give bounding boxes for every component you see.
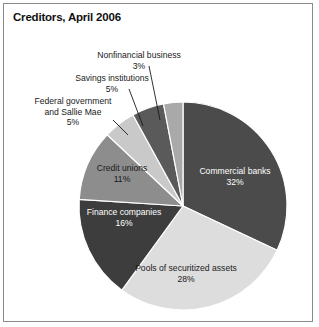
slice-label-credit-unions: Credit unions 11% — [67, 163, 177, 184]
slice-label-savings-name: Savings institutions — [75, 73, 149, 83]
slice-label-nonfinancial-pct: 3% — [79, 61, 199, 72]
slice-label-nonfinancial: Nonfinancial business 3% — [79, 50, 199, 71]
slice-label-commercial-pct: 32% — [180, 177, 290, 188]
slice-label-savings-institutions: Savings institutions 5% — [47, 73, 177, 94]
slice-label-pools-securitized-assets: Pools of securitized assets 28% — [111, 263, 261, 284]
slice-label-nonfinancial-name: Nonfinancial business — [97, 50, 181, 60]
slice-label-finance-pct: 16% — [64, 218, 184, 229]
slice-label-credit-name: Credit unions — [97, 163, 148, 173]
slice-label-pools-name: Pools of securitized assets — [135, 263, 237, 273]
chart-figure: Creditors, April 2006 Nonfinancial busin… — [0, 0, 319, 327]
slice-label-commercial-banks: Commercial banks 32% — [180, 166, 290, 187]
slice-label-pools-pct: 28% — [111, 274, 261, 285]
slice-label-federal-line1: Federal government — [35, 96, 112, 106]
slice-label-federal-line2: and Sallie Mae — [8, 107, 138, 118]
slice-label-savings-pct: 5% — [47, 84, 177, 95]
slice-label-commercial-name: Commercial banks — [199, 166, 270, 176]
slice-label-finance-name: Finance companies — [87, 207, 162, 217]
slice-label-federal-pct: 5% — [8, 117, 138, 128]
slice-label-credit-pct: 11% — [67, 174, 177, 185]
slice-label-finance-companies: Finance companies 16% — [64, 207, 184, 228]
slice-label-federal-government: Federal government and Sallie Mae 5% — [8, 96, 138, 128]
